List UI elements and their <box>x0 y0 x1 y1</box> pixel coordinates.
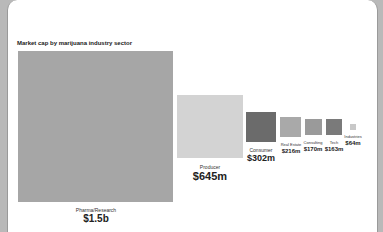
value-consulting: $170m <box>304 146 323 152</box>
square-industries <box>350 124 356 130</box>
square-consumer <box>246 112 276 142</box>
square-consulting <box>305 119 322 135</box>
value-producer: $645m <box>193 170 227 182</box>
label-consulting: Consulting <box>304 140 323 145</box>
value-consumer: $302m <box>247 153 275 163</box>
label-real-estate: Real Estate <box>281 142 302 147</box>
value-tech: $163m <box>325 146 344 152</box>
square-pharma-research <box>18 51 173 202</box>
chart-title: Market cap by marijuana industry sector <box>17 40 132 46</box>
square-producer <box>177 95 243 158</box>
label-industries: Industries <box>344 134 361 139</box>
square-real-estate <box>280 117 301 137</box>
value-pharma-research: $1.5b <box>83 213 109 224</box>
label-tech: Tech <box>330 140 338 145</box>
square-tech <box>326 119 342 135</box>
value-real-estate: $216m <box>282 148 301 154</box>
value-industries: $64m <box>345 140 360 146</box>
